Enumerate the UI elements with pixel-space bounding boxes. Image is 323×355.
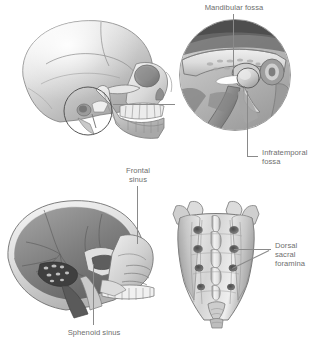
leader-infratemporal-fossa — [247, 91, 248, 156]
lateral-skull-illustration — [8, 14, 178, 154]
temporomandibular-joint-inset — [179, 19, 291, 131]
posterior-sacrum-illustration — [168, 200, 264, 330]
label-frontal-sinus: Frontal sinus — [110, 166, 166, 184]
label-mandibular-fossa: Mandibular fossa — [188, 3, 280, 12]
label-sphenoid-sinus: Sphenoid sinus — [48, 328, 140, 337]
midsagittal-skull-illustration — [2, 196, 157, 321]
leader-skull-to-inset — [113, 104, 175, 105]
tmj-inset-art — [180, 20, 291, 131]
leader-infratemporal-fossa-tick — [247, 156, 258, 157]
anatomy-figure: Mandibular fossa Infratemporal fossa — [0, 0, 323, 355]
label-dorsal-sacral-foramina: Dorsal sacral foramina — [275, 241, 323, 269]
leader-frontal-sinus — [137, 186, 138, 244]
leader-dorsal-sacral-foramina-upper — [234, 249, 271, 250]
leader-sphenoid-sinus — [93, 264, 94, 325]
label-infratemporal-fossa: Infratemporal fossa — [262, 148, 322, 166]
leader-mandibular-fossa — [233, 14, 234, 76]
